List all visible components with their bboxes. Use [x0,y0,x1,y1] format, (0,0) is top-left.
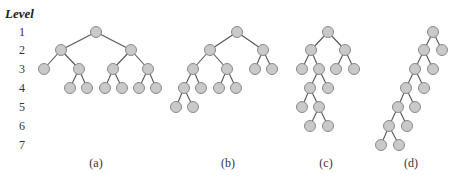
level-label-7: 7 [19,138,25,152]
tree-node [117,83,128,94]
tree-node [108,64,119,75]
tree-node [305,121,316,132]
tree-node [231,83,242,94]
level-axis: Level 1234567 [4,6,34,152]
tree-node [100,83,111,94]
tree-node [188,102,199,113]
tree-node [232,27,243,38]
level-labels: 1234567 [19,25,25,152]
tree-node [428,64,439,75]
tree-node [74,64,85,75]
binary-trees-figure: Level 1234567 (a)(b)(c)(d) [0,0,458,179]
level-label-6: 6 [19,119,25,133]
tree-node [419,45,430,56]
tree-node [196,83,207,94]
tree-node [297,64,308,75]
tree-a: (a) [39,27,162,171]
level-label-3: 3 [19,62,25,76]
tree-node [151,83,162,94]
tree-node [126,45,137,56]
tree-node [314,102,325,113]
tree-node [65,83,76,94]
tree-caption: (a) [89,156,102,170]
tree-node [179,83,190,94]
tree-node [250,64,261,75]
tree-node [323,83,334,94]
tree-c: (c) [297,27,360,171]
tree-node [349,64,360,75]
tree-node [401,83,412,94]
tree-node [39,64,50,75]
tree-node [222,64,233,75]
tree-caption: (d) [404,156,418,170]
tree-node [188,64,199,75]
tree-node [306,45,317,56]
tree-node [384,121,395,132]
tree-node [82,83,93,94]
tree-node [323,27,334,38]
tree-node [56,45,67,56]
tree-node [394,140,405,151]
tree-node [91,27,102,38]
level-label-5: 5 [19,100,25,114]
tree-node [340,45,351,56]
tree-caption: (b) [221,156,235,170]
tree-node [143,64,154,75]
tree-node [437,45,448,56]
level-axis-title: Level [4,6,34,21]
tree-node [305,83,316,94]
tree-node [171,102,182,113]
trees: (a)(b)(c)(d) [39,27,448,171]
tree-node [393,102,404,113]
tree-node [428,27,439,38]
tree-node [267,64,278,75]
tree-node [297,102,308,113]
tree-node [323,121,334,132]
level-label-1: 1 [19,25,25,39]
tree-node [410,64,421,75]
tree-node [410,102,421,113]
tree-b: (b) [171,27,278,171]
tree-node [402,121,413,132]
tree-node [331,64,342,75]
tree-node [134,83,145,94]
tree-d: (d) [376,27,448,171]
tree-node [205,45,216,56]
tree-node [314,64,325,75]
level-label-4: 4 [19,81,25,95]
tree-node [419,83,430,94]
tree-caption: (c) [319,156,332,170]
tree-node [214,83,225,94]
tree-node [376,140,387,151]
tree-node [258,45,269,56]
level-label-2: 2 [19,43,25,57]
